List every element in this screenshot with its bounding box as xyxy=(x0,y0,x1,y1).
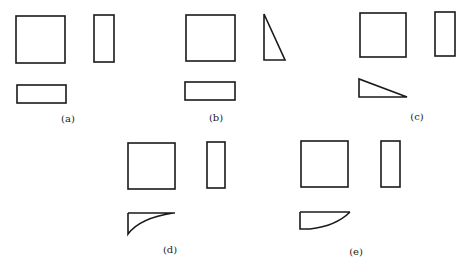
side-view-triangle xyxy=(264,14,285,60)
panel-label: (a) xyxy=(61,113,75,124)
top-view-curved-segment xyxy=(300,212,350,229)
panel-label: (d) xyxy=(163,244,177,255)
front-view-square xyxy=(186,15,235,61)
panel-a: (a) xyxy=(16,15,114,124)
panel-label: (e) xyxy=(349,246,363,257)
top-view-triangle xyxy=(359,79,407,97)
panel-label: (b) xyxy=(209,112,223,123)
front-view-square xyxy=(360,13,406,57)
front-view-square xyxy=(128,143,175,189)
front-view-square xyxy=(301,141,348,187)
front-view-square xyxy=(16,16,65,63)
panel-label: (c) xyxy=(410,111,424,122)
top-view-rectangle xyxy=(17,85,66,103)
panel-e: (e) xyxy=(300,141,400,257)
panel-b: (b) xyxy=(185,14,285,123)
three-view-diagram: (a) (b) (c) (d) (e) xyxy=(0,0,469,271)
side-view-rectangle xyxy=(381,141,400,187)
panel-c: (c) xyxy=(359,12,455,122)
side-view-rectangle xyxy=(435,12,455,56)
top-view-curved-triangle xyxy=(128,213,175,234)
side-view-rectangle xyxy=(207,142,225,188)
side-view-rectangle xyxy=(94,15,114,62)
top-view-rectangle xyxy=(185,82,235,100)
panel-d: (d) xyxy=(128,142,225,255)
